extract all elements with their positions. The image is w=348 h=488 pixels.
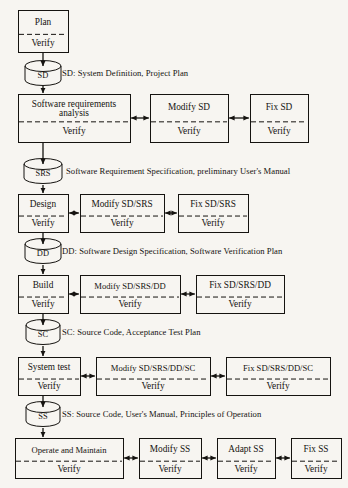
srs-cylinder-legend: Software Requirement Specification, prel…	[66, 167, 290, 176]
modify-sd-srs-box-title: Modify SD/SRS	[91, 201, 152, 210]
diagram-page: PlanVerifySDSD: System Definition, Proje…	[0, 0, 348, 488]
sc-cylinder-label: SC	[38, 330, 48, 338]
adapt-ss-box-verify: Verify	[234, 465, 257, 474]
modify-sd-srs-dd-sc-box-verify: Verify	[141, 383, 164, 392]
system-test-box-title: System test	[28, 364, 71, 373]
sd-cylinder-label: SD	[38, 71, 49, 79]
fix-sd-srs-box-title: Fix SD/SRS	[190, 201, 236, 210]
modify-sd-srs-box-verify: Verify	[110, 220, 133, 229]
modify-sd-srs-dd-sc-box-title: Modify SD/SRS/DD/SC	[111, 364, 195, 373]
fix-sd-srs-dd-box-verify: Verify	[228, 301, 251, 310]
plan-box-verify: Verify	[31, 39, 54, 48]
fix-sd-srs-dd-box-title: Fix SD/SRS/DD	[209, 282, 271, 291]
design-box-title: Design	[30, 201, 56, 210]
modify-sd-srs-dd-box-title: Modify SD/SRS/DD	[94, 282, 165, 291]
modify-ss-box-title: Modify SS	[150, 445, 191, 454]
fix-ss-box-title: Fix SS	[303, 445, 328, 454]
fix-ss-box-verify: Verify	[304, 465, 327, 474]
ss-cylinder-legend: SS: Source Code, User's Manual, Principl…	[62, 410, 261, 419]
fix-sd-srs-dd-sc-box-verify: Verify	[266, 383, 289, 392]
fix-sd-srs-dd-sc-box-title: Fix SD/SRS/DD/SC	[243, 364, 313, 373]
srs-cylinder-label: SRS	[35, 169, 50, 177]
software-requirements-analysis-box-verify: Verify	[62, 128, 85, 137]
modify-ss-box-verify: Verify	[158, 465, 181, 474]
adapt-ss-box-title: Adapt SS	[228, 445, 263, 454]
build-box-verify: Verify	[31, 301, 54, 310]
dd-cylinder-legend: DD: Software Design Specification, Softw…	[62, 247, 282, 256]
modify-sd-box-title: Modify SD	[168, 104, 210, 113]
design-box-verify: Verify	[31, 220, 54, 229]
software-requirements-analysis-box-title-line2: analysis	[59, 110, 89, 119]
sc-cylinder-legend: SC: Source Code, Acceptance Test Plan	[62, 328, 201, 337]
operate-and-maintain-box-verify: Verify	[57, 465, 80, 474]
fix-sd-srs-box-verify: Verify	[201, 220, 224, 229]
dd-cylinder-label: DD	[37, 249, 49, 257]
modify-sd-srs-dd-box-verify: Verify	[118, 301, 141, 310]
fix-sd-box-verify: Verify	[267, 128, 290, 137]
fix-sd-box-title: Fix SD	[266, 104, 293, 113]
system-test-box-verify: Verify	[37, 383, 60, 392]
plan-box-title: Plan	[35, 18, 52, 27]
operate-and-maintain-box-title: Operate and Maintain	[32, 446, 107, 455]
sd-cylinder-legend: SD: System Definition, Project Plan	[62, 69, 188, 78]
modify-sd-box-verify: Verify	[177, 128, 200, 137]
build-box-title: Build	[33, 282, 54, 291]
ss-cylinder-label: SS	[38, 412, 48, 420]
